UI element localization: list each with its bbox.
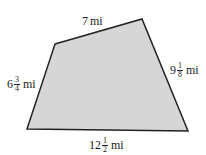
- side-label-left: 6 34 mi: [7, 76, 36, 93]
- unit: mi: [111, 138, 124, 153]
- fraction: 12: [102, 137, 108, 154]
- fraction: 18: [177, 62, 183, 79]
- denominator: 4: [15, 85, 19, 93]
- whole-part: 6: [7, 77, 13, 92]
- whole-part: 7: [82, 14, 88, 29]
- fraction: 34: [14, 76, 20, 93]
- quadrilateral-shape: [27, 19, 188, 131]
- unit: mi: [186, 63, 199, 78]
- whole-part: 9: [170, 63, 176, 78]
- unit: mi: [90, 14, 103, 29]
- side-label-right: 9 18 mi: [170, 62, 199, 79]
- side-label-bottom: 12 12 mi: [89, 137, 124, 154]
- denominator: 2: [103, 146, 107, 154]
- side-label-top: 7mi: [82, 14, 103, 29]
- denominator: 8: [178, 71, 182, 79]
- unit: mi: [23, 77, 36, 92]
- whole-part: 12: [89, 138, 101, 153]
